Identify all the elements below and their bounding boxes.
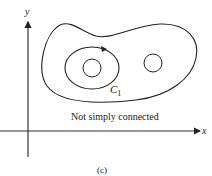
curve-label: C1 <box>110 83 121 98</box>
figure-caption: (c) <box>97 165 107 175</box>
curve-c1-arrow-icon <box>101 46 107 52</box>
x-axis-label: x <box>201 125 207 136</box>
hole-left <box>83 59 101 77</box>
hole-right <box>144 54 162 72</box>
region-label: Not simply connected <box>71 111 159 122</box>
y-axis-label: y <box>24 6 30 17</box>
diagram-canvas: y x C1 Not simply connected (c) <box>0 0 212 176</box>
